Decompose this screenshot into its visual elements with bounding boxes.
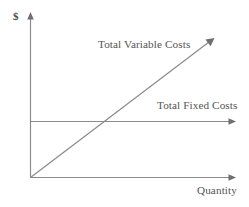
x-axis-arrowhead-icon [229, 174, 237, 181]
y-axis-label: $ [13, 11, 19, 22]
x-axis-label: Quantity [197, 185, 237, 196]
variable-cost-arrowhead-icon [205, 38, 214, 46]
fixed-cost-arrowhead-icon [229, 118, 237, 125]
variable-costs-label: Total Variable Costs [98, 39, 190, 50]
y-axis-arrowhead-icon [27, 12, 34, 20]
fixed-costs-label: Total Fixed Costs [157, 100, 237, 111]
cost-behavior-chart: $ Total Variable Costs Total Fixed Costs… [0, 0, 249, 207]
